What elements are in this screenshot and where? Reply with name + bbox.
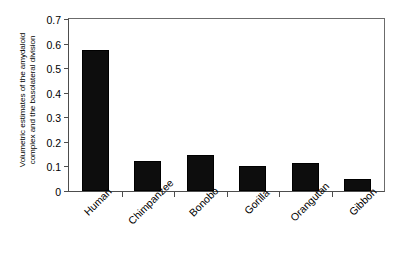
y-axis-title-line-2: complex and the basolateral division — [28, 0, 38, 200]
y-tick: 0.1 — [64, 166, 69, 167]
bar-cell — [332, 19, 385, 191]
y-tick: 0.5 — [64, 68, 69, 69]
y-axis-title-line-1: Volumetric estimates of the amydaloid — [18, 0, 28, 200]
x-axis-tick-labels: HumanChimpanzeeBonoboGorillaOrangutanGib… — [68, 196, 385, 258]
y-tick: 0.3 — [64, 117, 69, 118]
y-tick: 0.4 — [64, 93, 69, 94]
y-tick: 0.7 — [64, 19, 69, 20]
bar-cell — [122, 19, 175, 191]
y-axis-title: Volumetric estimates of the amydaloid co… — [14, 0, 42, 200]
bar-cell — [279, 19, 332, 191]
x-tick-label-cell: Gibbon — [332, 196, 385, 256]
bar-cell — [69, 19, 122, 191]
x-tick-label-cell: Bonobo — [174, 196, 227, 256]
bar-chart-figure: Volumetric estimates of the amydaloid co… — [0, 0, 399, 258]
x-tick-label-cell: Orangutan — [279, 196, 332, 256]
y-tick: 0 — [64, 191, 69, 192]
y-tick-label: 0.3 — [46, 113, 61, 124]
y-tick-label: 0.2 — [46, 138, 61, 149]
y-tick-label: 0.6 — [46, 39, 61, 50]
y-tick-label: 0.5 — [46, 64, 61, 75]
x-tick-label-cell: Gorilla — [227, 196, 280, 256]
y-tick: 0.2 — [64, 142, 69, 143]
y-tick: 0.6 — [64, 44, 69, 45]
x-tick-label-cell: Chimpanzee — [121, 196, 174, 256]
y-tick-label: 0 — [55, 187, 61, 198]
y-tick-label: 0.7 — [46, 15, 61, 26]
bar-series — [69, 19, 384, 191]
bar-cell — [174, 19, 227, 191]
plot-area: 00.10.20.30.40.50.60.7 — [68, 18, 385, 192]
bar-cell — [227, 19, 280, 191]
bar-human — [82, 50, 109, 191]
x-tick-label-cell: Human — [68, 196, 121, 256]
y-tick-label: 0.1 — [46, 162, 61, 173]
y-tick-label: 0.4 — [46, 88, 61, 99]
